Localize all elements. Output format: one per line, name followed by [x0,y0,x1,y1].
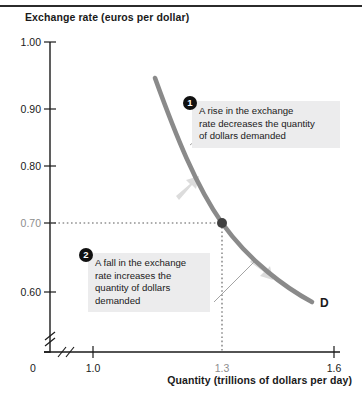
callout-2-line-3: quantity of dollars [95,282,204,295]
y-tick-label-2: 0.90 [21,103,42,115]
callout-1-badge: 1 [183,96,197,110]
callout-2-leader-line [214,262,254,302]
y-tick-label-5: 0.60 [21,286,42,298]
y-tick-label-1: 1.00 [21,36,42,48]
callout-1-line-3: of dollars demanded [199,130,334,143]
y-tick-label-3: 0.80 [21,160,42,172]
callout-2-line-1: A fall in the exchange [95,257,204,270]
chart-plot: 1.00 0.90 0.80 0.70 0.60 0 1.0 1.3 1.6 D [0,0,362,406]
callout-1-line-2: rate decreases the quantity [199,118,334,131]
demand-curve-label: D [320,296,329,310]
equilibrium-point [217,218,227,228]
x-tick-label-3: 1.6 [327,362,342,374]
axis-corner [44,330,50,352]
callout-1-line-1: A rise in the exchange [199,105,334,118]
x-tick-label-1: 1.0 [86,362,101,374]
x-tick-label-0: 0 [30,362,36,374]
callout-2: A fall in the exchange rate increases th… [88,253,210,312]
callout-2-line-4: demanded [95,295,204,308]
callout-2-line-2: rate increases the [95,270,204,283]
figure-container: Exchange rate (euros per dollar) Quantit… [0,0,362,406]
y-tick-label-4: 0.70 [21,217,42,229]
x-tick-label-2: 1.3 [215,362,230,374]
callout-2-badge: 2 [79,248,93,262]
callout-1: A rise in the exchange rate decreases th… [192,101,340,148]
